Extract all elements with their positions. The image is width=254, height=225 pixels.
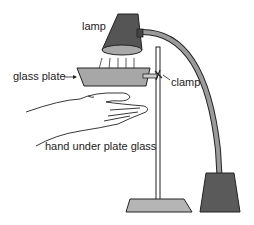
glass-plate [77,68,150,86]
label-clamp: clamp [171,76,200,88]
clamp-pointer [163,75,170,80]
label-glass-plate: glass plate [13,70,66,82]
stand-base [126,199,192,212]
diagram-canvas: lamp glass plate clamp hand under plate … [0,0,254,225]
label-lamp: lamp [82,20,106,32]
label-hand: hand under plate glass [45,140,157,152]
hand-icon [26,93,148,146]
lamp-icon [102,14,143,55]
lamp-base [200,173,240,212]
arrow-icon [73,75,77,79]
lamp-arm [140,32,220,185]
